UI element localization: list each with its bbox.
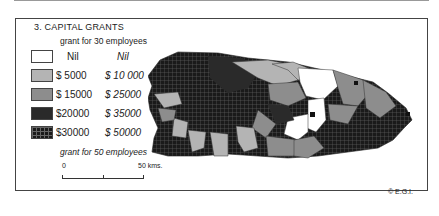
grant-30-value: $ 5000	[56, 70, 87, 81]
legend-swatch-mid-grey	[31, 88, 53, 101]
scale-tick	[103, 175, 104, 179]
legend-row-5000: $ 5000 $ 10 000	[31, 69, 151, 84]
map-title: 3. CAPITAL GRANTS	[34, 22, 124, 32]
top-rule	[14, 0, 429, 1]
copyright-credit: © E.G.I.	[388, 188, 413, 195]
scale-end-label: 50 kms.	[138, 162, 163, 169]
grant-30-value: Nil	[67, 51, 79, 62]
scale-tick	[62, 175, 63, 179]
grant-50-value: Nil	[117, 51, 129, 62]
legend-swatch-light-grey	[31, 69, 53, 82]
grant-50-value: $ 10 000	[105, 70, 144, 81]
puerto-rico-municipality-map	[148, 48, 414, 160]
legend-row-15000: $ 15000 $ 25000	[31, 88, 151, 103]
legend-swatch-white	[31, 50, 53, 63]
grant-30-value: $ 15000	[56, 89, 92, 100]
legend-row-nil: Nil Nil	[31, 50, 151, 65]
grant-30-value: $20000	[56, 108, 89, 119]
grant-30-value: $30000	[56, 127, 89, 138]
scale-start-label: 0	[62, 162, 66, 169]
scale-tick	[143, 175, 144, 179]
legend-swatch-dark	[31, 107, 53, 120]
grant-50-value: $ 35000	[105, 108, 141, 119]
legend-row-20000: $20000 $ 35000	[31, 107, 151, 122]
scale-bar	[62, 172, 144, 179]
legend-header-30: grant for 30 employees	[60, 36, 147, 46]
legend-row-30000: $30000 $ 50000	[31, 126, 151, 141]
grant-50-value: $ 50000	[105, 127, 141, 138]
legend-header-50: grant for 50 employees	[60, 147, 147, 157]
legend-swatch-hatched	[31, 126, 53, 139]
grant-50-value: $ 25000	[105, 89, 141, 100]
